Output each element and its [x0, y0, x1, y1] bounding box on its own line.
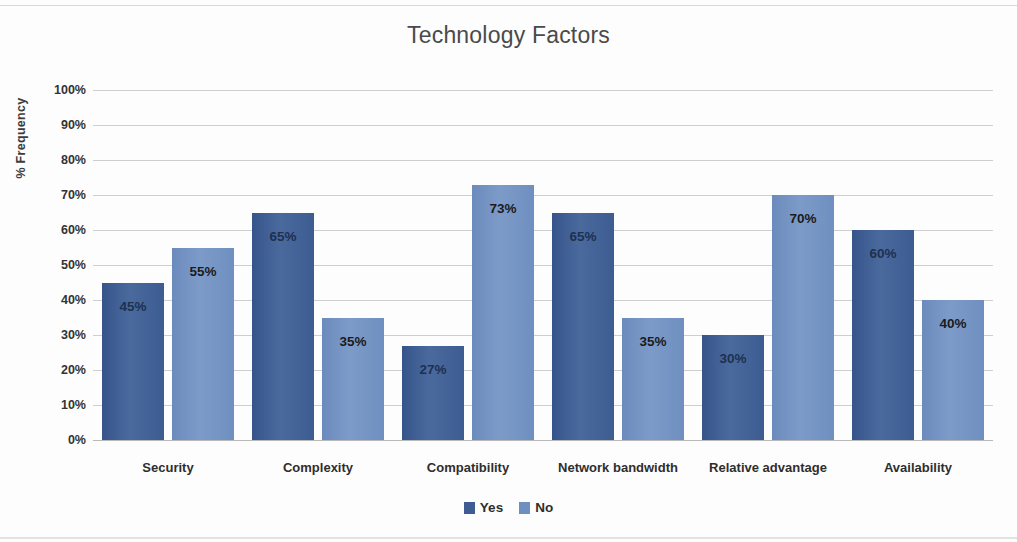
- bar-no-security[interactable]: 55%: [172, 248, 234, 441]
- bar-value-label: 35%: [322, 334, 384, 349]
- y-axis-tick-label: 0%: [26, 433, 86, 447]
- y-axis-tick-label: 60%: [26, 223, 86, 237]
- bar-value-label: 65%: [552, 229, 614, 244]
- bar-group: 65%35%: [552, 90, 684, 440]
- y-axis-tick-label: 40%: [26, 293, 86, 307]
- y-axis-tick-label: 50%: [26, 258, 86, 272]
- x-axis-category-label: Network bandwidth: [558, 460, 678, 475]
- legend-swatch-icon: [464, 502, 475, 514]
- bar-group: 45%55%: [102, 90, 234, 440]
- bar-value-label: 45%: [102, 299, 164, 314]
- legend-item-yes[interactable]: Yes: [464, 500, 503, 515]
- x-axis-category-label: Relative advantage: [709, 460, 827, 475]
- scan-edge-bottom-divider: [0, 537, 1017, 539]
- y-axis-tick-label: 70%: [26, 188, 86, 202]
- bar-group: 65%35%: [252, 90, 384, 440]
- scan-edge-top-divider: [0, 5, 1017, 6]
- bar-yes-compatibility[interactable]: 27%: [402, 346, 464, 441]
- y-axis-tick-label: 100%: [26, 83, 86, 97]
- bar-no-relative-advantage[interactable]: 70%: [772, 195, 834, 440]
- bar-value-label: 55%: [172, 264, 234, 279]
- bar-value-label: 60%: [852, 246, 914, 261]
- bar-no-network-bandwidth[interactable]: 35%: [622, 318, 684, 441]
- bar-group: 60%40%: [852, 90, 984, 440]
- y-axis-tick-labels: 100%90%80%70%60%50%40%30%20%10%0%: [20, 90, 86, 440]
- chart-legend: YesNo: [0, 500, 1017, 515]
- plot-area: 45%55%65%35%27%73%65%35%30%70%60%40%: [93, 90, 993, 440]
- bar-value-label: 27%: [402, 362, 464, 377]
- legend-label: Yes: [480, 500, 503, 515]
- legend-swatch-icon: [519, 502, 530, 514]
- bar-no-compatibility[interactable]: 73%: [472, 185, 534, 441]
- technology-factors-chart: Technology Factors % Frequency 100%90%80…: [0, 0, 1017, 542]
- bar-value-label: 30%: [702, 351, 764, 366]
- y-axis-tick-label: 80%: [26, 153, 86, 167]
- bar-value-label: 73%: [472, 201, 534, 216]
- y-axis-tick-label: 10%: [26, 398, 86, 412]
- y-axis-tick-label: 30%: [26, 328, 86, 342]
- bar-yes-relative-advantage[interactable]: 30%: [702, 335, 764, 440]
- gridline: [93, 440, 993, 441]
- y-axis-tick-label: 20%: [26, 363, 86, 377]
- x-axis-category-label: Availability: [884, 460, 952, 475]
- bar-value-label: 65%: [252, 229, 314, 244]
- y-axis-tick-label: 90%: [26, 118, 86, 132]
- bar-group: 27%73%: [402, 90, 534, 440]
- x-axis-category-label: Security: [142, 460, 193, 475]
- bar-value-label: 35%: [622, 334, 684, 349]
- chart-title: Technology Factors: [0, 22, 1017, 49]
- bar-no-availability[interactable]: 40%: [922, 300, 984, 440]
- bar-yes-availability[interactable]: 60%: [852, 230, 914, 440]
- x-axis-category-label: Compatibility: [427, 460, 509, 475]
- legend-label: No: [535, 500, 553, 515]
- bar-yes-network-bandwidth[interactable]: 65%: [552, 213, 614, 441]
- bar-no-complexity[interactable]: 35%: [322, 318, 384, 441]
- bar-yes-security[interactable]: 45%: [102, 283, 164, 441]
- bar-value-label: 40%: [922, 316, 984, 331]
- legend-item-no[interactable]: No: [519, 500, 553, 515]
- bar-group: 30%70%: [702, 90, 834, 440]
- bar-value-label: 70%: [772, 211, 834, 226]
- bar-yes-complexity[interactable]: 65%: [252, 213, 314, 441]
- x-axis-category-label: Complexity: [283, 460, 353, 475]
